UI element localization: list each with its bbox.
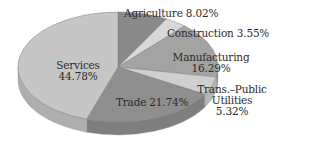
label-trans-public-utilities: Trans.–Public Utilities 5.32% — [192, 84, 272, 117]
label-agriculture: Agriculture 8.02% — [124, 8, 218, 19]
label-trans-value: 5.32% — [192, 106, 272, 117]
label-services-value: 44.78% — [48, 71, 108, 82]
label-services: Services 44.78% — [48, 60, 108, 82]
label-trade: Trade 21.74% — [116, 97, 188, 108]
label-manufacturing: Manufacturing 16.29% — [168, 52, 254, 74]
label-construction: Construction 3.55% — [167, 28, 269, 39]
label-manufacturing-value: 16.29% — [168, 63, 254, 74]
